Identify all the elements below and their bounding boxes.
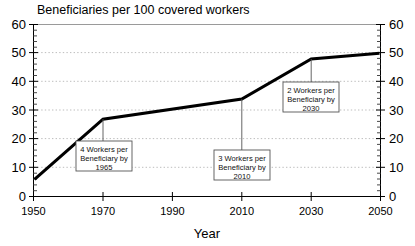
chart-container: 4 Workers per Beneficiary by 1965 3 Work…: [0, 0, 415, 246]
annotation-2010-line2: Beneficiary by: [218, 163, 266, 172]
line-chart: 4 Workers per Beneficiary by 1965 3 Work…: [0, 0, 415, 246]
y-label-left-60: 60: [12, 17, 26, 32]
annotation-1965: 4 Workers per Beneficiary by 1965: [76, 141, 132, 172]
annotation-2030-line3: 2030: [303, 104, 320, 113]
y-label-left-20: 20: [12, 131, 26, 146]
annotation-2030: 2 Workers per Beneficiary by 2030: [283, 82, 339, 113]
x-label-1990: 1990: [160, 205, 184, 217]
x-label-2030: 2030: [299, 205, 323, 217]
y-label-left-30: 30: [12, 103, 26, 118]
x-label-2010: 2010: [230, 205, 254, 217]
annotation-2010-line3: 2010: [234, 172, 251, 181]
annotation-1965-line1: 4 Workers per: [80, 145, 128, 154]
y-label-left-0: 0: [19, 189, 26, 204]
annotation-2030-line1: 2 Workers per: [287, 86, 335, 95]
y-axis-right-labels: 60 50 40 30 20 10 0: [389, 17, 403, 204]
annotation-2010-line1: 3 Workers per: [218, 154, 266, 163]
y-label-left-50: 50: [12, 45, 26, 60]
chart-title: Beneficiaries per 100 covered workers: [37, 3, 250, 17]
x-axis-labels: 1950 1970 1990 2010 2030 2050: [21, 205, 392, 217]
y-label-right-0: 0: [389, 189, 396, 204]
y-label-right-30: 30: [389, 103, 403, 118]
y-label-left-40: 40: [12, 74, 26, 89]
y-label-right-40: 40: [389, 74, 403, 89]
y-label-right-20: 20: [389, 131, 403, 146]
annotation-1965-line2: Beneficiary by: [80, 154, 128, 163]
x-label-2050: 2050: [368, 205, 392, 217]
y-label-right-60: 60: [389, 17, 403, 32]
y-label-left-10: 10: [12, 160, 26, 175]
annotation-2010: 3 Workers per Beneficiary by 2010: [214, 150, 270, 181]
annotation-2030-line2: Beneficiary by: [287, 95, 335, 104]
x-label-1950: 1950: [21, 205, 45, 217]
x-label-1970: 1970: [91, 205, 115, 217]
y-label-right-50: 50: [389, 45, 403, 60]
annotation-1965-line3: 1965: [96, 163, 113, 172]
y-axis-left-labels: 60 50 40 30 20 10 0: [12, 17, 26, 204]
x-axis-title: Year: [194, 226, 221, 241]
y-label-right-10: 10: [389, 160, 403, 175]
